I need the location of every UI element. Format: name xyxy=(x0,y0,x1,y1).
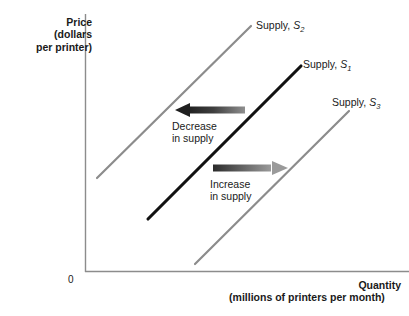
curve-label-s2-subscript: 2 xyxy=(300,25,304,34)
increase-in-supply-arrow xyxy=(213,161,288,175)
supply-curve-s2 xyxy=(97,26,251,178)
annotation-decrease-in-supply: Decrease in supply xyxy=(172,120,217,145)
y-axis-title-line1: Price xyxy=(66,16,92,28)
annotation-increase-line1: Increase xyxy=(210,178,251,190)
curve-label-s2: Supply, S2 xyxy=(256,19,304,35)
curve-label-s1-prefix: Supply, xyxy=(303,58,337,70)
curve-label-s3-prefix: Supply, xyxy=(332,96,366,108)
annotation-increase-in-supply: Increase in supply xyxy=(210,178,251,203)
curve-label-s1: Supply, S1 xyxy=(303,58,351,74)
curve-label-s1-subscript: 1 xyxy=(347,64,351,73)
x-axis-title-sub: (millions of printers per month) xyxy=(205,291,409,303)
curve-label-s3: Supply, S3 xyxy=(332,96,380,112)
curve-label-s3-subscript: 3 xyxy=(376,102,380,111)
decrease-in-supply-arrow xyxy=(175,103,245,117)
supply-shift-diagram: Price (dollars per printer) Quantity (mi… xyxy=(0,0,409,316)
annotation-decrease-line2: in supply xyxy=(172,132,217,144)
x-axis-title: Quantity (millions of printers per month… xyxy=(205,279,409,304)
curve-label-s2-prefix: Supply, xyxy=(256,19,290,31)
annotation-increase-line2: in supply xyxy=(210,190,251,202)
annotation-decrease-line1: Decrease xyxy=(172,120,217,132)
x-axis-title-main: Quantity xyxy=(205,279,409,291)
y-axis-title: Price (dollars per printer) xyxy=(0,16,92,53)
origin-label: 0 xyxy=(68,274,74,286)
y-axis-title-line2: (dollars xyxy=(54,28,92,40)
y-axis-title-line3: per printer) xyxy=(36,41,92,53)
